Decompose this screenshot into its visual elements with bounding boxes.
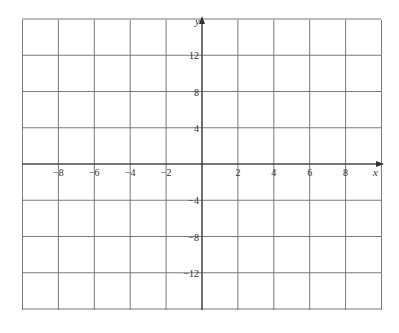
- x-tick-label: −8: [53, 167, 64, 178]
- y-tick-label: 4: [194, 123, 199, 134]
- y-axis-label: y: [194, 15, 200, 27]
- y-tick-label: 12: [189, 50, 199, 61]
- axes: [22, 16, 384, 310]
- y-tick-label: −12: [183, 268, 199, 279]
- y-tick-label: 8: [194, 87, 199, 98]
- coordinate-grid: −8−6−4−224681284−4−8−12 x y: [0, 0, 399, 333]
- x-tick-label: −4: [125, 167, 136, 178]
- x-axis-label: x: [372, 166, 378, 178]
- y-tick-label: −4: [188, 195, 199, 206]
- x-tick-label: 8: [343, 167, 348, 178]
- y-tick-label: −8: [188, 232, 199, 243]
- x-tick-label: 2: [235, 167, 240, 178]
- x-tick-label: −6: [89, 167, 100, 178]
- x-tick-label: 4: [271, 167, 276, 178]
- x-tick-label: −2: [161, 167, 172, 178]
- y-axis-arrow-icon: [199, 16, 205, 24]
- x-tick-label: 6: [307, 167, 312, 178]
